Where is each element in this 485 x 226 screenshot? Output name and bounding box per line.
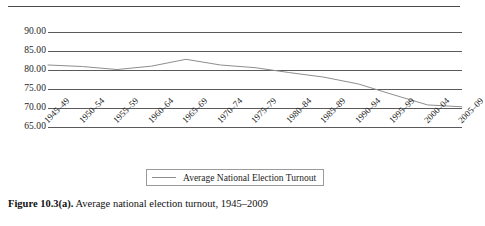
caption-text: Average national election turnout, 1945–… [75, 198, 268, 209]
page-top-rule [8, 6, 460, 7]
x-axis: 1945–491950–541955–591960–641965–691970–… [0, 118, 464, 166]
figure-number: Figure 10.3(a). [8, 198, 73, 209]
legend-label: Average National Election Turnout [183, 173, 316, 183]
chart-legend: Average National Election Turnout [146, 169, 324, 186]
legend-line-swatch [152, 177, 176, 178]
figure-caption: Figure 10.3(a). Average national electio… [8, 197, 458, 210]
series-line-average-national-election-turnout [48, 59, 462, 107]
